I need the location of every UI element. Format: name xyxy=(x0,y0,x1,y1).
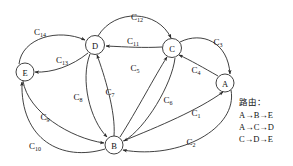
edge-C8[interactable] xyxy=(86,54,107,137)
routing-legend-row-1: A→B→E xyxy=(239,109,293,121)
node-D[interactable]: D xyxy=(86,36,105,55)
edge-label-C14: C14 xyxy=(34,27,46,38)
edge-label-C4: C4 xyxy=(191,65,200,76)
node-label-A: A xyxy=(222,79,229,89)
edges-group xyxy=(19,16,232,153)
edge-C2[interactable] xyxy=(123,90,232,152)
network-routing-diagram: E D C A B C1 C2 C3 C4 C xyxy=(0,0,293,166)
node-label-B: B xyxy=(111,141,117,151)
edge-label-C2: C2 xyxy=(186,137,195,148)
node-label-E: E xyxy=(22,68,27,78)
edge-label-C1: C1 xyxy=(191,108,200,119)
edge-label-C13: C13 xyxy=(56,55,68,66)
routing-legend-row-3: C→D→E xyxy=(239,133,293,145)
routing-legend-row-2: A→C→D xyxy=(239,121,293,133)
edge-label-C5: C5 xyxy=(130,63,139,74)
edge-label-C7: C7 xyxy=(105,87,114,98)
edge-label-C11: C11 xyxy=(127,36,139,47)
routing-legend: 路由： A→B→E A→C→D C→D→E xyxy=(239,96,293,145)
edge-label-C12: C12 xyxy=(131,12,143,23)
node-A[interactable]: A xyxy=(216,74,234,92)
node-E[interactable]: E xyxy=(16,63,34,81)
edge-labels-group: C1 C2 C3 C4 C5 C6 C7 C8 C9 C10 C11 C12 C… xyxy=(29,12,223,152)
edge-label-C9: C9 xyxy=(40,112,49,123)
node-B[interactable]: B xyxy=(105,136,123,154)
edge-label-C6: C6 xyxy=(163,95,172,106)
edge-C14[interactable] xyxy=(19,35,85,64)
node-label-C: C xyxy=(169,44,175,54)
edge-C5[interactable] xyxy=(120,57,167,137)
edge-label-C8: C8 xyxy=(73,92,82,103)
nodes-group: E D C A B xyxy=(16,36,234,155)
edge-label-C3: C3 xyxy=(213,37,222,48)
routing-legend-title: 路由： xyxy=(239,96,293,108)
edge-label-C10: C10 xyxy=(29,141,41,152)
node-label-D: D xyxy=(92,41,98,51)
node-C[interactable]: C xyxy=(163,39,182,58)
